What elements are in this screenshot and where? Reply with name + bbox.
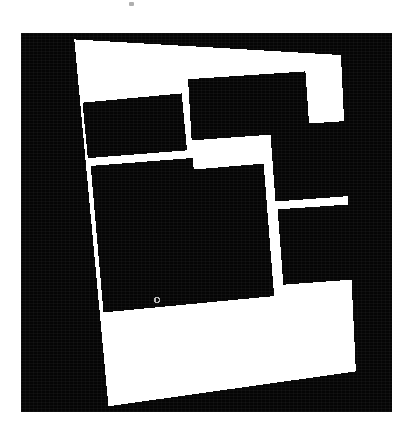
page-canvas <box>0 0 406 436</box>
block-upper-left <box>83 93 188 158</box>
binarized-floorplan-scan <box>21 33 392 412</box>
scan-speck-artifact <box>129 2 134 6</box>
block-main-lower-left <box>91 152 274 312</box>
figure-group <box>21 33 392 412</box>
floorplan-vector <box>21 33 392 412</box>
